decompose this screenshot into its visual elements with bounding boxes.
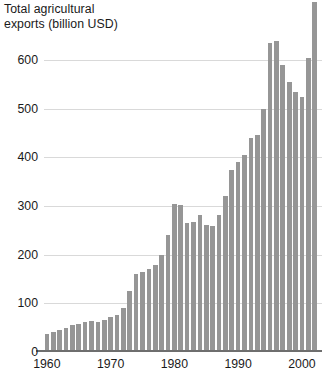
bar bbox=[223, 196, 228, 352]
bar bbox=[204, 225, 209, 352]
bar bbox=[96, 322, 101, 352]
bar bbox=[185, 223, 190, 352]
bar bbox=[300, 97, 305, 353]
bar bbox=[121, 308, 126, 352]
bar bbox=[153, 265, 158, 352]
bar-chart: Total agricultural exports (billion USD)… bbox=[0, 0, 326, 380]
bar bbox=[147, 269, 152, 352]
bar bbox=[83, 322, 88, 352]
x-tick-label-1970: 1970 bbox=[97, 357, 124, 371]
bar bbox=[70, 325, 75, 352]
bar bbox=[64, 328, 69, 352]
bar bbox=[255, 135, 260, 352]
bar bbox=[127, 291, 132, 352]
plot-area bbox=[44, 0, 322, 352]
bar bbox=[178, 205, 183, 352]
x-tick-label-1990: 1990 bbox=[224, 357, 251, 371]
bar bbox=[172, 204, 177, 352]
bar bbox=[140, 272, 145, 352]
bar bbox=[261, 109, 266, 352]
bar bbox=[210, 226, 215, 352]
x-tick-label-1960: 1960 bbox=[33, 357, 60, 371]
bar bbox=[191, 222, 196, 352]
y-tick-label-500: 500 bbox=[4, 102, 38, 116]
x-axis-line bbox=[36, 350, 322, 352]
bar bbox=[293, 92, 298, 352]
bar bbox=[102, 320, 107, 352]
bar bbox=[236, 162, 241, 352]
bar bbox=[51, 332, 56, 352]
bar-series bbox=[44, 0, 322, 352]
bar bbox=[89, 321, 94, 352]
bar bbox=[287, 82, 292, 352]
x-tick-label-1980: 1980 bbox=[161, 357, 188, 371]
bar bbox=[166, 235, 171, 352]
bar bbox=[108, 317, 113, 352]
bar bbox=[249, 138, 254, 352]
bar bbox=[242, 155, 247, 352]
bar bbox=[312, 2, 317, 352]
bar bbox=[198, 215, 203, 352]
x-tick-label-2000: 2000 bbox=[288, 357, 315, 371]
bar bbox=[45, 334, 50, 352]
bar bbox=[76, 324, 81, 352]
bar bbox=[274, 41, 279, 352]
bar bbox=[115, 315, 120, 352]
bar bbox=[229, 170, 234, 353]
bar bbox=[159, 255, 164, 352]
y-tick-label-200: 200 bbox=[4, 248, 38, 262]
bar bbox=[280, 65, 285, 352]
y-tick-label-600: 600 bbox=[4, 53, 38, 67]
y-tick-label-100: 100 bbox=[4, 296, 38, 310]
bar bbox=[134, 274, 139, 352]
y-tick-label-400: 400 bbox=[4, 150, 38, 164]
bar bbox=[306, 58, 311, 352]
y-tick-label-300: 300 bbox=[4, 199, 38, 213]
bar bbox=[268, 43, 273, 352]
bar bbox=[217, 215, 222, 352]
bar bbox=[57, 330, 62, 352]
